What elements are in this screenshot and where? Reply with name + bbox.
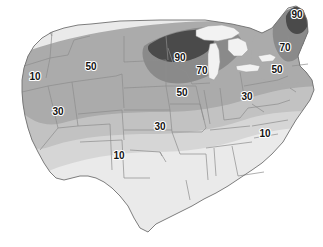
contour-label-pacific-northwest: 10: [29, 71, 41, 82]
contour-label-kansas: 30: [154, 121, 166, 132]
contour-label-wisconsin: 70: [196, 65, 208, 76]
contour-label-iowa: 50: [176, 87, 188, 98]
contour-label-vermont: 70: [279, 42, 291, 53]
us-contour-map: 10 50 30 90 70 50 30 10 30 50 70 90 10: [0, 0, 323, 247]
contour-label-ohio: 30: [241, 91, 253, 102]
contour-label-north-maine: 90: [291, 9, 303, 20]
contour-label-tennessee: 10: [259, 128, 271, 139]
contour-label-north-minnesota: 90: [174, 52, 186, 63]
contour-label-great-basin: 30: [52, 106, 64, 117]
contour-label-new-york: 50: [271, 64, 283, 75]
contour-label-montana: 50: [85, 61, 97, 72]
contour-label-new-mexico: 10: [113, 150, 125, 161]
map-container: 10 50 30 90 70 50 30 10 30 50 70 90 10: [0, 0, 323, 247]
